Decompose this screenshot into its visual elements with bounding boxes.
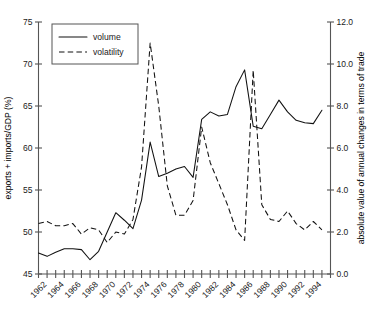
series-line-volume bbox=[39, 70, 322, 260]
y-axis-left-tick-label: 45 bbox=[23, 269, 33, 279]
x-axis-tick-label: 1962 bbox=[28, 279, 49, 300]
x-axis-tick-label: 1986 bbox=[234, 279, 255, 300]
x-axis-tick-label: 1980 bbox=[183, 279, 204, 300]
x-axis-tick-label: 1976 bbox=[148, 279, 169, 300]
x-axis-tick-label: 1984 bbox=[217, 279, 238, 300]
y-axis-left-title: exports + imports/GDP (%) bbox=[3, 96, 13, 199]
y-axis-right-title: absolute value of annual changes in term… bbox=[356, 52, 366, 245]
y-axis-left-tick-label: 65 bbox=[23, 101, 33, 111]
x-axis-tick-label: 1968 bbox=[80, 279, 101, 300]
y-axis-right-tick-label: 10.0 bbox=[337, 59, 354, 69]
y-axis-right-tick-label: 6.0 bbox=[337, 143, 349, 153]
x-axis-tick-label: 1994 bbox=[303, 279, 324, 300]
y-axis-left-tick-label: 70 bbox=[23, 59, 33, 69]
chart-container: 45505560657075exports + imports/GDP (%)0… bbox=[0, 0, 372, 315]
x-axis-tick-label: 1990 bbox=[269, 279, 290, 300]
x-axis-tick-label: 1966 bbox=[62, 279, 83, 300]
y-axis-left-tick-label: 55 bbox=[23, 185, 33, 195]
line-chart: 45505560657075exports + imports/GDP (%)0… bbox=[0, 0, 372, 315]
y-axis-right-tick-label: 8.0 bbox=[337, 101, 349, 111]
y-axis-left-tick-label: 50 bbox=[23, 227, 33, 237]
legend-label-volume: volume bbox=[93, 32, 121, 42]
x-axis-tick-label: 1974 bbox=[131, 279, 152, 300]
x-axis-tick-label: 1988 bbox=[251, 279, 272, 300]
x-axis-tick-label: 1992 bbox=[286, 279, 307, 300]
y-axis-left-tick-label: 75 bbox=[23, 17, 33, 27]
y-axis-right-tick-label: 4.0 bbox=[337, 185, 349, 195]
x-axis-tick-label: 1964 bbox=[45, 279, 66, 300]
x-axis-tick-label: 1978 bbox=[165, 279, 186, 300]
x-axis-tick-label: 1972 bbox=[114, 279, 135, 300]
x-axis-tick-label: 1982 bbox=[200, 279, 221, 300]
legend-label-volatility: volatility bbox=[93, 47, 124, 57]
y-axis-left-tick-label: 60 bbox=[23, 143, 33, 153]
x-axis-tick-label: 1970 bbox=[97, 279, 118, 300]
y-axis-right-tick-label: 12.0 bbox=[337, 17, 354, 27]
series-line-volatility bbox=[39, 43, 322, 243]
legend-box bbox=[52, 24, 138, 64]
y-axis-right-tick-label: 0.0 bbox=[337, 269, 349, 279]
y-axis-right-tick-label: 2.0 bbox=[337, 227, 349, 237]
